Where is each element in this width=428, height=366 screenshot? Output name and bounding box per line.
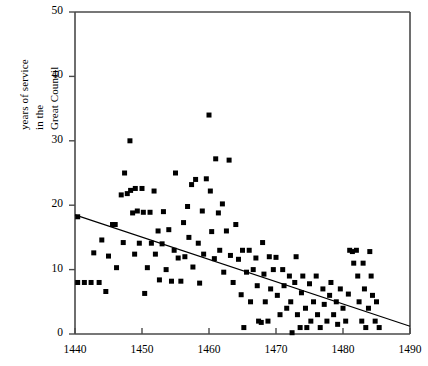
data-point bbox=[196, 241, 201, 246]
data-point bbox=[335, 322, 340, 327]
data-point bbox=[189, 182, 194, 187]
data-point bbox=[320, 286, 325, 291]
data-point bbox=[216, 210, 221, 215]
data-point bbox=[207, 113, 212, 118]
data-point bbox=[354, 248, 359, 253]
data-point bbox=[137, 241, 142, 246]
data-point bbox=[122, 171, 127, 176]
data-point bbox=[148, 210, 153, 215]
y-tick-label: 30 bbox=[37, 133, 63, 145]
data-point bbox=[186, 235, 191, 240]
data-point bbox=[209, 229, 214, 234]
data-point bbox=[268, 286, 273, 291]
data-point bbox=[152, 189, 157, 194]
data-point bbox=[133, 186, 138, 191]
data-point bbox=[121, 240, 126, 245]
data-point bbox=[274, 255, 279, 260]
data-point bbox=[328, 280, 333, 285]
data-point bbox=[193, 177, 198, 182]
data-point bbox=[292, 280, 297, 285]
data-point bbox=[253, 256, 258, 261]
data-point bbox=[374, 299, 379, 304]
data-point bbox=[89, 280, 94, 285]
data-point bbox=[239, 292, 244, 297]
data-point bbox=[103, 289, 108, 294]
data-point bbox=[221, 270, 226, 275]
x-tick-label: 1460 bbox=[193, 343, 225, 355]
data-point bbox=[114, 265, 119, 270]
data-point bbox=[315, 312, 320, 317]
data-point bbox=[201, 252, 206, 257]
x-tick-label: 1480 bbox=[327, 343, 359, 355]
data-point bbox=[185, 204, 190, 209]
data-point bbox=[181, 220, 186, 225]
data-point bbox=[322, 302, 327, 307]
data-point bbox=[200, 209, 205, 214]
data-point bbox=[331, 312, 336, 317]
data-point bbox=[220, 201, 225, 206]
data-point bbox=[231, 280, 236, 285]
data-point bbox=[166, 227, 171, 232]
data-point bbox=[367, 249, 372, 254]
data-point bbox=[247, 248, 252, 253]
data-point bbox=[284, 306, 289, 311]
data-point bbox=[288, 299, 293, 304]
y-tick-label: 10 bbox=[37, 262, 63, 274]
data-point bbox=[298, 325, 303, 330]
data-point bbox=[338, 286, 343, 291]
x-tick-label: 1490 bbox=[394, 343, 426, 355]
data-point bbox=[278, 312, 283, 317]
data-point bbox=[127, 138, 132, 143]
y-tick-label: 40 bbox=[37, 68, 63, 80]
data-point bbox=[173, 171, 178, 176]
data-point bbox=[153, 252, 158, 257]
data-point bbox=[314, 274, 319, 279]
data-point bbox=[208, 189, 213, 194]
data-point bbox=[164, 267, 169, 272]
data-point bbox=[300, 274, 305, 279]
data-point bbox=[178, 279, 183, 284]
data-point bbox=[304, 325, 309, 330]
data-point bbox=[75, 280, 80, 285]
data-point bbox=[142, 291, 147, 296]
data-point bbox=[99, 237, 104, 242]
data-point bbox=[106, 254, 111, 259]
data-point bbox=[303, 306, 308, 311]
data-point bbox=[324, 319, 329, 324]
data-point bbox=[308, 319, 313, 324]
data-point bbox=[370, 293, 375, 298]
data-point bbox=[224, 228, 229, 233]
data-point bbox=[341, 306, 346, 311]
data-point bbox=[357, 299, 362, 304]
data-point bbox=[251, 267, 256, 272]
data-point bbox=[267, 254, 272, 259]
data-point bbox=[97, 280, 102, 285]
x-tick-label: 1450 bbox=[126, 343, 158, 355]
data-point bbox=[255, 283, 260, 288]
data-point bbox=[91, 250, 96, 255]
data-point bbox=[295, 312, 300, 317]
data-point bbox=[190, 265, 195, 270]
y-axis-label-line-1: years of service bbox=[18, 59, 30, 130]
data-point bbox=[359, 319, 364, 324]
data-point bbox=[119, 192, 124, 197]
data-point bbox=[240, 248, 245, 253]
x-tick-label: 1440 bbox=[59, 343, 91, 355]
data-point bbox=[213, 156, 218, 161]
data-point bbox=[145, 265, 150, 270]
data-point bbox=[343, 319, 348, 324]
data-point bbox=[204, 176, 209, 181]
data-point bbox=[290, 330, 295, 335]
data-point bbox=[280, 267, 285, 272]
data-point bbox=[217, 248, 222, 253]
data-point bbox=[275, 293, 280, 298]
data-point bbox=[197, 281, 202, 286]
data-point bbox=[157, 277, 162, 282]
y-tick-label: 50 bbox=[37, 4, 63, 16]
data-point bbox=[307, 281, 312, 286]
data-point bbox=[355, 274, 360, 279]
data-point bbox=[227, 158, 232, 163]
data-point bbox=[113, 222, 118, 227]
data-point bbox=[248, 299, 253, 304]
x-tick-label: 1470 bbox=[260, 343, 292, 355]
